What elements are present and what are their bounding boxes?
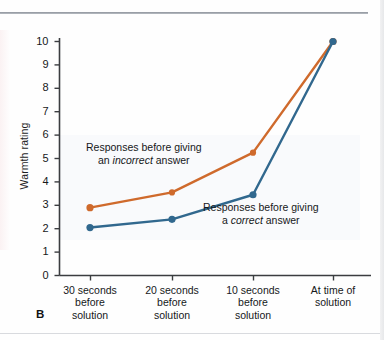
x-axis-tick-label: 20 secondsbeforesolution — [126, 284, 218, 322]
y-axis-tick-label: 5 — [27, 152, 49, 164]
annotation-incorrect-line2-pre: an — [98, 154, 113, 166]
series-line-1 — [90, 42, 333, 228]
y-axis-tick-label: 6 — [27, 128, 49, 140]
annotation-incorrect-emphasis: incorrect — [113, 154, 153, 166]
x-axis-tick-label: 10 secondsbeforesolution — [207, 284, 299, 322]
annotation-incorrect-line1: Responses before giving — [86, 141, 202, 153]
figure-panel-b: Warmth rating 012345678910 30 secondsbef… — [0, 0, 384, 340]
y-axis-tick-label: 2 — [27, 222, 49, 234]
page-right-edge — [380, 0, 384, 340]
annotation-incorrect-series: Responses before giving an incorrect ans… — [86, 141, 202, 167]
y-axis-tick-label: 7 — [27, 105, 49, 117]
annotation-correct-line1: Responses before giving — [203, 201, 319, 213]
annotation-correct-series: Responses before giving a correct answer — [203, 201, 319, 227]
panel-label: B — [36, 308, 44, 320]
data-point-marker — [329, 38, 336, 45]
annotation-correct-emphasis: correct — [231, 214, 263, 226]
series-line-0 — [90, 42, 333, 208]
y-axis-tick-label: 8 — [27, 81, 49, 93]
x-axis-tick-label: 30 secondsbeforesolution — [44, 284, 136, 322]
data-point-marker — [169, 189, 175, 195]
annotation-correct-line2-post: answer — [263, 214, 300, 226]
annotation-incorrect-line2-post: answer — [153, 154, 190, 166]
data-point-marker — [86, 224, 93, 231]
y-axis-tick-label: 4 — [27, 175, 49, 187]
y-axis-tick-label: 10 — [27, 35, 49, 47]
y-axis-tick-label: 3 — [27, 198, 49, 210]
y-axis-tick-label: 9 — [27, 58, 49, 70]
annotation-correct-line2-pre: a — [222, 214, 231, 226]
data-point-marker — [168, 216, 175, 223]
bottom-divider-rule — [0, 333, 384, 334]
data-point-marker — [86, 204, 93, 211]
y-axis-tick-label: 1 — [27, 245, 49, 257]
y-axis-tick-label: 0 — [27, 269, 49, 281]
data-point-marker — [249, 191, 256, 198]
x-axis-tick-label: At time ofsolution — [287, 284, 379, 309]
